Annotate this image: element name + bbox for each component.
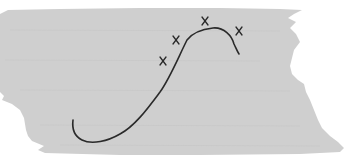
sketch-diagram	[0, 0, 353, 157]
